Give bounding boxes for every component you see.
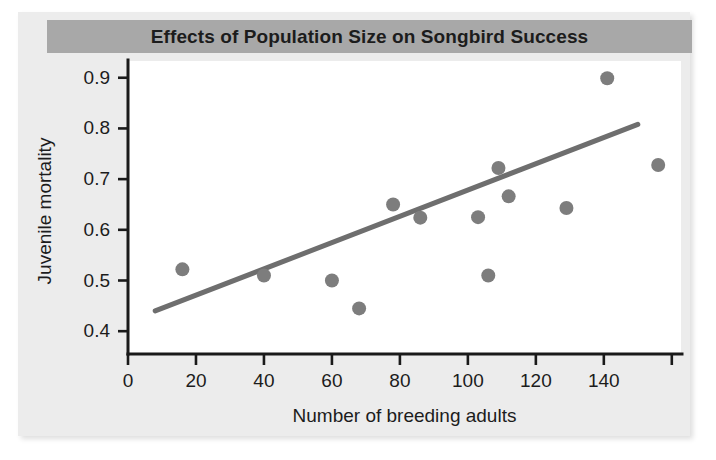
y-tick-label: 0.6 (55, 219, 110, 241)
x-tick-label: 140 (588, 370, 620, 392)
y-tick-label: 0.7 (55, 168, 110, 190)
x-tick-label: 80 (389, 370, 410, 392)
x-tick-label: 100 (452, 370, 484, 392)
x-tick-label: 40 (253, 370, 274, 392)
plot-canvas (128, 61, 681, 353)
x-tick-label: 60 (321, 370, 342, 392)
y-tick-label: 0.5 (55, 270, 110, 292)
figure-root: Effects of Population Size on Songbird S… (0, 0, 716, 460)
y-tick-label: 0.8 (55, 117, 110, 139)
x-tick-label: 20 (185, 370, 206, 392)
y-axis-title: Juvenile mortality (34, 106, 56, 316)
y-tick-label: 0.4 (55, 320, 110, 342)
chart-title: Effects of Population Size on Songbird S… (151, 26, 588, 48)
y-tick-label: 0.9 (55, 67, 110, 89)
x-tick-label: 0 (123, 370, 134, 392)
chart-title-banner: Effects of Population Size on Songbird S… (47, 20, 692, 53)
x-tick-label: 120 (520, 370, 552, 392)
x-axis-title: Number of breeding adults (128, 405, 681, 427)
